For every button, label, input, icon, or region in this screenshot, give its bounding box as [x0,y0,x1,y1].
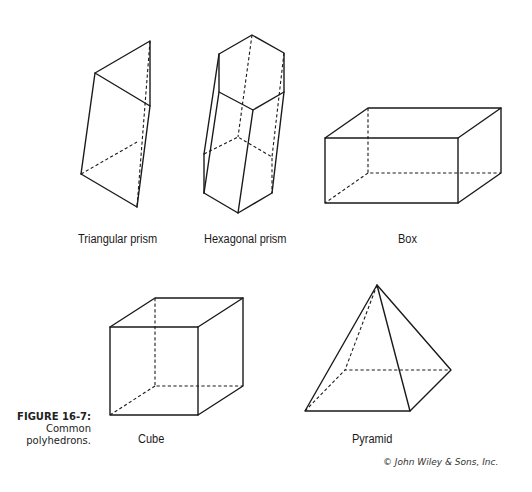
pyramid-label: Pyramid [352,432,392,446]
triangular-prism-drawing [81,41,150,207]
pyramid-drawing [305,285,451,411]
hexagonal-prism-label: Hexagonal prism [204,232,287,246]
cube-drawing [110,298,243,415]
figure-caption: FIGURE 16-7: Common polyhedrons. [0,411,91,447]
caption-line-2: polyhedrons. [0,435,91,447]
figure-number: FIGURE 16-7: [0,411,91,423]
caption-line-1: Common [0,423,91,435]
box-label: Box [398,232,417,246]
copyright-notice: © John Wiley & Sons, Inc. [383,457,498,467]
cube-label: Cube [138,432,164,446]
triangular-prism-label: Triangular prism [78,232,157,246]
hexagonal-prism-drawing [204,35,284,213]
box-drawing [325,108,501,203]
